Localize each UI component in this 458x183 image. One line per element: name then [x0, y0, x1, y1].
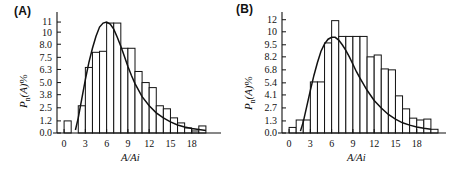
- y-tick-label: 1.2: [40, 115, 53, 126]
- x-tick-label: 18: [187, 138, 197, 149]
- x-tick-label: 12: [369, 138, 379, 149]
- y-tick-label: 0.0: [265, 127, 278, 138]
- histogram-bar: [64, 121, 71, 133]
- histogram-bar: [431, 129, 438, 133]
- histogram-bar: [121, 48, 128, 133]
- x-tick-label: 9: [125, 138, 130, 149]
- y-tick-label: 8.2: [265, 51, 278, 62]
- histogram-bar: [303, 120, 310, 133]
- histogram-bar: [156, 106, 163, 133]
- histogram-bar: [114, 23, 121, 133]
- panel-b-histogram-bars: [289, 21, 438, 133]
- y-tick-label: 10: [267, 26, 277, 37]
- y-tick-label: 5.0: [40, 77, 53, 88]
- histogram-bar: [381, 69, 388, 133]
- x-tick-label: 3: [308, 138, 313, 149]
- y-tick-label: 2.5: [40, 102, 53, 113]
- histogram-bar: [339, 36, 346, 133]
- y-tick-label: 4.1: [265, 89, 278, 100]
- histogram-bar: [325, 43, 332, 133]
- histogram-bar: [310, 82, 317, 133]
- histogram-bar: [403, 109, 410, 133]
- y-tick-label: 2.7: [265, 102, 278, 113]
- panel-b-plot: 12109.58.26.85.44.12.71.30.0 0369121518: [229, 0, 458, 183]
- histogram-bar: [424, 119, 431, 133]
- histogram-bar: [289, 127, 296, 133]
- y-tick-label: 5.4: [265, 77, 278, 88]
- x-tick-label: 12: [144, 138, 154, 149]
- histogram-bar: [135, 71, 142, 133]
- y-tick-label: 3.8: [40, 89, 53, 100]
- histogram-bar: [395, 96, 402, 133]
- y-tick-label: 8.0: [40, 39, 53, 50]
- histogram-bar: [353, 36, 360, 133]
- x-tick-label: 0: [62, 138, 67, 149]
- y-tick-label: 9.5: [265, 39, 278, 50]
- figure-container: (A) Pn(A)% A/Ai 11108.07.56.35.03.82.51.…: [0, 0, 458, 183]
- y-tick-label: 7.5: [40, 52, 53, 63]
- panel-a-plot: 11108.07.56.35.03.82.51.20.0 0369121518: [0, 0, 229, 183]
- x-tick-label: 15: [390, 138, 400, 149]
- histogram-bar: [128, 48, 135, 133]
- x-tick-label: 0: [287, 138, 292, 149]
- x-tick-label: 15: [165, 138, 175, 149]
- y-tick-label: 6.8: [265, 64, 278, 75]
- panel-a: (A) Pn(A)% A/Ai 11108.07.56.35.03.82.51.…: [0, 0, 229, 183]
- panel-b: (B) Pn(A)% A/Ai 12109.58.26.85.44.12.71.…: [229, 0, 458, 183]
- y-tick-label: 12: [267, 14, 277, 25]
- histogram-bar: [388, 70, 395, 133]
- histogram-bar: [178, 123, 185, 133]
- histogram-bar: [170, 118, 177, 133]
- x-tick-label: 18: [412, 138, 422, 149]
- panel-a-y-tick-labels: 11108.07.56.35.03.82.51.20.0: [40, 16, 53, 138]
- y-tick-label: 1.3: [265, 115, 278, 126]
- y-tick-label: 6.3: [40, 64, 53, 75]
- histogram-bar: [317, 82, 324, 133]
- panel-a-x-tick-labels: 0369121518: [62, 138, 197, 149]
- y-tick-label: 0.0: [40, 127, 53, 138]
- panel-b-y-tick-labels: 12109.58.26.85.44.12.71.30.0: [265, 14, 278, 138]
- panel-b-x-tick-labels: 0369121518: [287, 138, 422, 149]
- histogram-bar: [107, 23, 114, 133]
- histogram-bar: [100, 51, 107, 133]
- histogram-bar: [92, 52, 99, 133]
- x-tick-label: 9: [350, 138, 355, 149]
- x-tick-label: 6: [104, 138, 109, 149]
- x-tick-label: 6: [329, 138, 334, 149]
- x-tick-label: 3: [83, 138, 88, 149]
- y-tick-label: 10: [42, 27, 52, 38]
- histogram-bar: [142, 83, 149, 133]
- histogram-bar: [374, 55, 381, 133]
